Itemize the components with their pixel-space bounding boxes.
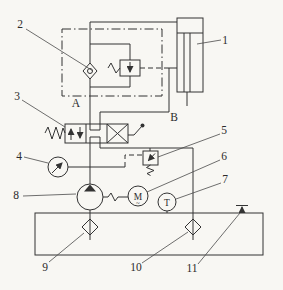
port-label-a: A: [72, 97, 81, 109]
port-label-b: B: [170, 111, 178, 123]
callout-9: 9: [42, 261, 48, 273]
valve-spring: [45, 127, 65, 139]
check-valve-diamond: [83, 63, 97, 79]
leader-11: [198, 213, 240, 264]
leader-3: [22, 100, 65, 127]
tank: [35, 213, 263, 255]
leader-7: [176, 183, 221, 199]
leader-1: [197, 40, 221, 44]
leader-2: [26, 29, 93, 71]
relief-valve-symbol: [143, 151, 158, 176]
leader-8: [23, 194, 76, 196]
valve-lever-knob: [141, 124, 145, 128]
callout-8: 8: [13, 189, 19, 201]
callout-3: 3: [14, 90, 20, 102]
callout-1: 1: [222, 34, 228, 46]
bypass-loop-top: [90, 44, 130, 60]
relief-pilot-dashed: [125, 155, 143, 167]
suction-filter-symbol: [82, 219, 98, 235]
callout-2: 2: [17, 18, 23, 30]
leader-9: [49, 233, 84, 262]
pressure-gauge-symbol: [48, 157, 68, 177]
thermometer-letter: T: [164, 198, 170, 208]
cylinder-rod: [184, 33, 190, 92]
callout-6: 6: [221, 150, 227, 162]
pump-symbol: [77, 184, 103, 210]
directional-valve-body: [65, 124, 128, 143]
check-valve-symbol: [83, 63, 97, 79]
motor-symbol: M ~: [128, 186, 148, 207]
balance-valve-symbol: [108, 60, 140, 76]
thermometer-symbol: T: [158, 193, 176, 213]
bypass-loop-bottom: [90, 76, 130, 87]
leader-5: [158, 134, 220, 157]
motor-wave: ~: [136, 199, 140, 207]
callout-10: 10: [130, 261, 142, 273]
relief-valve-spring: [147, 165, 155, 176]
callout-4: 4: [16, 150, 22, 162]
callout-11: 11: [186, 262, 197, 274]
valve-lever: [128, 126, 142, 135]
coupling-symbol: [103, 193, 128, 201]
assembly-enclosure: [62, 29, 162, 96]
callout-7: 7: [222, 173, 228, 185]
balance-valve-spring: [108, 63, 120, 73]
cylinder-symbol: [177, 18, 203, 106]
callout-labels: 1 2 3 4 5 6 7 8 9 10 11 A B: [13, 18, 228, 274]
leader-4: [24, 157, 48, 163]
air-breather-symbol: [236, 206, 248, 214]
leader-10: [142, 232, 188, 263]
callout-5: 5: [221, 124, 227, 136]
hydraulic-circuit-diagram: M ~ T 1 2 3 4 5 6: [0, 0, 283, 290]
directional-valve-symbol: [45, 124, 145, 144]
coupling-zigzag: [108, 193, 118, 201]
